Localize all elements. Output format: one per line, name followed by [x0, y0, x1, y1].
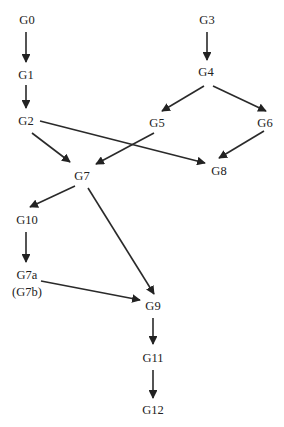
- edge-arrow-g4-to-g6: [213, 86, 266, 111]
- node-g7: G7: [74, 170, 89, 183]
- node-g0: G0: [19, 14, 34, 27]
- dependency-graph: G0G1G2G3G4G5G6G7G8G10G7a(G7b)G9G11G12: [0, 0, 284, 427]
- node-label: G3: [199, 13, 214, 27]
- node-label: G8: [211, 164, 226, 178]
- node-g1: G1: [18, 69, 33, 82]
- node-g8: G8: [211, 165, 226, 178]
- node-label: G11: [142, 351, 163, 365]
- node-g11: G11: [142, 352, 163, 365]
- node-g10: G10: [16, 214, 38, 227]
- node-label: G12: [142, 403, 164, 417]
- node-g3: G3: [199, 14, 214, 27]
- node-label: G2: [18, 114, 33, 128]
- edge-arrow-g2-to-g7: [32, 133, 70, 162]
- edge-arrow-g7a-to-g9: [41, 281, 140, 300]
- node-label: G4: [198, 65, 213, 79]
- edge-arrow-g7-to-g9: [88, 188, 154, 294]
- node-g6: G6: [257, 117, 272, 130]
- edge-arrow-g7-to-g10: [30, 186, 75, 207]
- node-sublabel: (G7b): [12, 285, 42, 298]
- node-label: G10: [16, 213, 38, 227]
- node-g4: G4: [198, 66, 213, 79]
- node-g2: G2: [18, 115, 33, 128]
- node-label: G6: [257, 116, 272, 130]
- node-g5: G5: [149, 117, 164, 130]
- edge-arrow-g6-to-g8: [219, 131, 264, 158]
- node-label: G7a: [17, 268, 38, 282]
- node-g12: G12: [142, 404, 164, 417]
- node-g7a: G7a(G7b): [12, 269, 42, 298]
- edge-arrow-g4-to-g5: [162, 86, 204, 111]
- node-g9: G9: [145, 300, 160, 313]
- node-label: G5: [149, 116, 164, 130]
- node-label: G0: [19, 13, 34, 27]
- node-label: G1: [18, 68, 33, 82]
- node-label: G7: [74, 169, 89, 183]
- edge-arrow-g2-to-g8: [40, 121, 205, 163]
- node-label: G9: [145, 299, 160, 313]
